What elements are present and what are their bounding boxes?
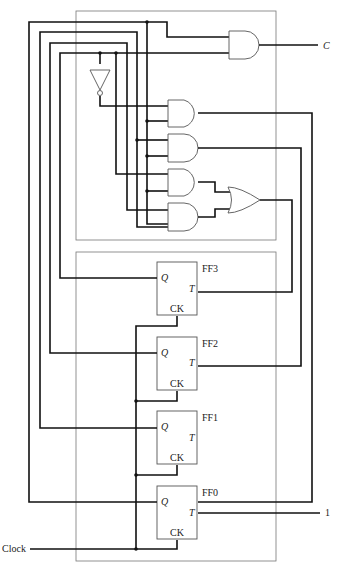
and-gate-carry — [229, 31, 318, 59]
ff-name: FF0 — [202, 487, 218, 498]
and-gate-3 — [168, 169, 232, 196]
clock-wiring — [30, 316, 177, 551]
q-label: Q — [161, 496, 169, 507]
not-gate — [90, 70, 110, 96]
ck-label: CK — [170, 527, 185, 538]
q-feedback-wiring — [29, 20, 229, 502]
flip-flop-ff2: FF2 Q T CK — [157, 337, 218, 390]
ff-name: FF2 — [202, 338, 218, 349]
clock-label: Clock — [2, 543, 26, 554]
q-label: Q — [161, 421, 169, 432]
and-gate-4 — [168, 203, 232, 231]
or-gate — [198, 187, 292, 292]
and-gate-2 — [168, 134, 301, 366]
ck-label: CK — [170, 303, 185, 314]
and1-to-ff1-t — [198, 113, 312, 502]
ck-label: CK — [170, 452, 185, 463]
q-label: Q — [161, 347, 169, 358]
flip-flop-ff1: FF1 Q T CK — [157, 411, 218, 464]
circuit-diagram: FF3 Q T CK FF2 Q T CK FF1 Q T CK FF0 Q T… — [0, 0, 341, 569]
ff-name: FF1 — [202, 412, 218, 423]
flip-flop-ff3: FF3 Q T CK — [157, 262, 218, 315]
ck-label: CK — [170, 378, 185, 389]
ff-name: FF3 — [202, 263, 218, 274]
carry-output-label: C — [323, 40, 330, 51]
q-label: Q — [161, 272, 169, 283]
constant-one-label: 1 — [325, 507, 330, 518]
